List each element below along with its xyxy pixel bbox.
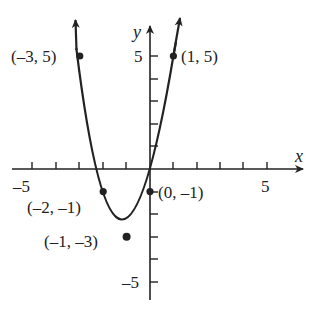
label-0-neg1: (0, –1) <box>158 183 203 202</box>
point-1-5 <box>170 52 177 59</box>
chart-svg: x y –5 5 5 –5 (–3, 5) (1, 5) (–2, –1) (0… <box>0 0 319 312</box>
label-neg1-neg3: (–1, –3) <box>44 232 98 251</box>
point-0-neg1 <box>146 188 153 195</box>
parabola-graph: x y –5 5 5 –5 (–3, 5) (1, 5) (–2, –1) (0… <box>0 0 319 312</box>
label-neg3-5: (–3, 5) <box>11 47 56 66</box>
label-neg2-neg1: (–2, –1) <box>27 198 81 217</box>
y-min-label: –5 <box>121 273 139 292</box>
x-min-label: –5 <box>12 177 30 196</box>
point-neg1-neg3 <box>123 233 131 241</box>
y-axis-label: y <box>131 22 141 42</box>
y-max-label: 5 <box>134 47 143 66</box>
label-1-5: (1, 5) <box>181 47 218 66</box>
x-axis-label: x <box>294 146 303 166</box>
point-neg3-5 <box>76 52 83 59</box>
point-neg2-neg1 <box>100 188 107 195</box>
x-max-label: 5 <box>261 177 270 196</box>
right-arrow <box>174 18 180 52</box>
left-arrow <box>76 20 77 50</box>
